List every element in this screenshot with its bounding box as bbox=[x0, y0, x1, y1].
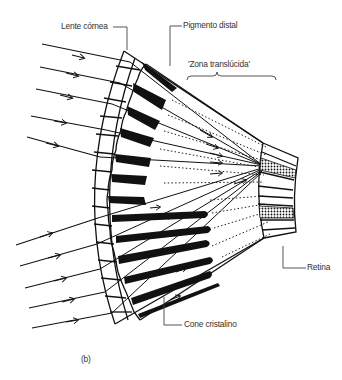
label-crystalline-cone: Cone cristalino bbox=[184, 318, 237, 329]
distal-pigment-wedges bbox=[108, 62, 220, 318]
label-clear-zone: 'Zona translúcida' bbox=[188, 58, 250, 69]
label-retina: Retina bbox=[307, 261, 330, 272]
superposition-eye-diagram bbox=[0, 0, 342, 380]
label-distal-pigment: Pigmento distal bbox=[183, 19, 238, 30]
label-cornea-lens: Lente córnea bbox=[61, 20, 108, 31]
incoming-light-rays-lower bbox=[16, 218, 112, 328]
panel-label: (b) bbox=[81, 353, 91, 364]
